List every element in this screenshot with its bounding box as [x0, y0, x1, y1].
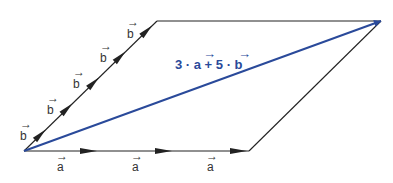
b-label-4: b — [100, 51, 107, 65]
b-label-3-mark: → — [73, 65, 85, 79]
a-arrowhead-2 — [155, 148, 172, 154]
resultant-a-mark: → — [203, 46, 216, 61]
vector-diagram: a → a → a → b → b → b → b → b → 3 · a + … — [0, 0, 393, 183]
resultant-label: 3 · a + 5 · b → → — [175, 46, 251, 72]
b-vectors — [24, 21, 157, 151]
a-arrowhead-1 — [80, 148, 97, 154]
parallelogram-outline — [157, 21, 381, 151]
b-label-3: b — [73, 77, 80, 91]
a-label-3-mark: → — [206, 149, 218, 163]
right-edge — [249, 21, 381, 151]
a-arrowhead-3 — [230, 148, 247, 154]
b-label-5: b — [127, 27, 134, 41]
b-label-4-mark: → — [100, 39, 112, 53]
b-label-1: b — [20, 129, 27, 143]
b-label-2: b — [47, 103, 54, 117]
a-label-1-mark: → — [56, 149, 68, 163]
a-label-2-mark: → — [131, 149, 143, 163]
b-labels: b → b → b → b → b → — [20, 15, 139, 143]
b-label-1-mark: → — [20, 117, 32, 131]
resultant-b-mark: → — [238, 46, 251, 61]
b-label-2-mark: → — [47, 91, 59, 105]
b-label-5-mark: → — [127, 15, 139, 29]
